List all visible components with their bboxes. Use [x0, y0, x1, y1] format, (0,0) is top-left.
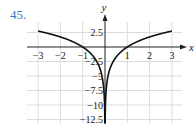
y-tick-label: −10: [87, 100, 103, 111]
tick-labels: −3−2−11232.5−2.5−5−7.5−10−12.5xy: [33, 1, 194, 125]
x-axis-label: x: [188, 41, 194, 53]
chart-plot-area: −3−2−11232.5−2.5−5−7.5−10−12.5xy: [0, 0, 196, 127]
x-tick-label: 2: [147, 50, 152, 61]
y-tick-label: −12.5: [80, 114, 103, 125]
y-tick-label: −5: [92, 71, 103, 82]
x-tick-label: 3: [169, 50, 174, 61]
y-axis-arrow-icon: [103, 14, 108, 21]
y-tick-label: 2.5: [91, 27, 104, 38]
x-axis-arrow-icon: [180, 45, 187, 50]
y-axis-label: y: [101, 1, 107, 13]
curve-right-branch: [105, 31, 172, 123]
y-tick-label: −2.5: [85, 56, 103, 67]
x-tick-label: −3: [33, 50, 44, 61]
y-tick-label: −7.5: [85, 85, 103, 96]
x-tick-label: 1: [125, 50, 130, 61]
axes: [27, 14, 187, 123]
x-tick-label: −2: [55, 50, 66, 61]
